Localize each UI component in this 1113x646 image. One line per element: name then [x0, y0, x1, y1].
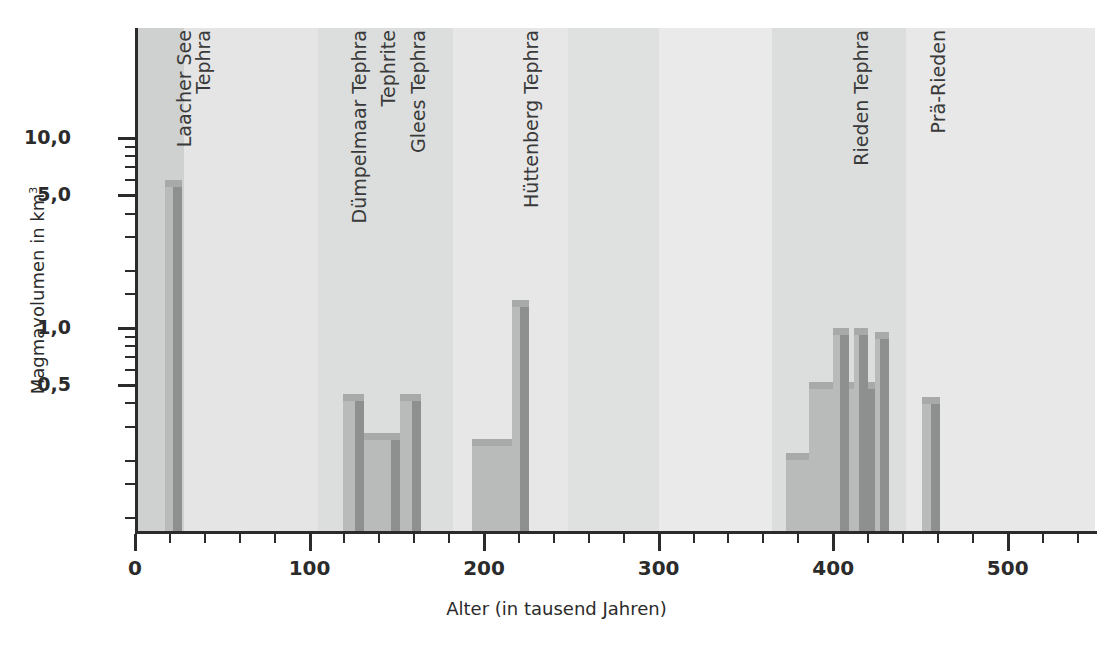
y-axis-minor-tick	[125, 483, 136, 485]
bar	[875, 332, 889, 532]
x-axis-major-tick	[483, 534, 486, 551]
bar-side-face	[931, 404, 940, 532]
x-axis-minor-tick	[762, 534, 764, 543]
plot-area	[135, 28, 1095, 532]
bar	[400, 394, 421, 532]
bar	[854, 328, 868, 532]
x-axis-tick-label: 100	[275, 556, 345, 580]
x-axis-major-tick	[134, 534, 137, 551]
bar-side-face	[880, 339, 889, 532]
bar	[165, 180, 182, 532]
x-axis-major-tick	[309, 534, 312, 551]
y-axis-major-tick	[118, 384, 136, 387]
y-axis-minor-tick	[125, 213, 136, 215]
y-axis-minor-tick	[125, 270, 136, 272]
x-axis-minor-tick	[797, 534, 799, 543]
x-axis-minor-tick	[413, 534, 415, 543]
bar-side-face	[173, 187, 182, 532]
bar-side-face	[859, 335, 868, 532]
bar-side-face	[391, 440, 400, 532]
background-band	[659, 28, 772, 532]
x-axis-tick-label: 200	[449, 556, 519, 580]
x-axis-minor-tick	[727, 534, 729, 543]
x-axis-minor-tick	[867, 534, 869, 543]
background-band	[568, 28, 659, 532]
bar-top-face	[364, 433, 401, 440]
x-axis-minor-tick	[343, 534, 345, 543]
y-axis-minor-tick	[125, 356, 136, 358]
bar	[343, 394, 364, 532]
y-axis-minor-tick	[125, 369, 136, 371]
event-label: Hüttenberg Tephra	[520, 30, 542, 208]
x-axis-minor-tick	[588, 534, 590, 543]
x-axis-minor-tick	[553, 534, 555, 543]
bar	[833, 328, 849, 532]
x-axis-tick-label: 300	[624, 556, 694, 580]
y-axis-major-tick	[118, 137, 136, 140]
x-axis-line	[135, 531, 1097, 534]
x-axis-major-tick	[832, 534, 835, 551]
event-label: Prä-Rieden	[927, 30, 949, 133]
event-label: Glees Tephra	[407, 30, 429, 153]
y-axis-minor-tick	[125, 179, 136, 181]
y-axis-line	[135, 28, 138, 534]
x-axis-tick-label: 0	[100, 556, 170, 580]
event-label: Dümpelmaar Tephra	[348, 30, 370, 223]
bar-top-face	[833, 328, 849, 335]
x-axis-minor-tick	[623, 534, 625, 543]
x-axis-minor-tick	[274, 534, 276, 543]
bar-top-face	[512, 300, 529, 307]
y-axis-title-text: Magmavolumen in km	[27, 194, 48, 394]
y-axis-minor-tick	[125, 426, 136, 428]
background-band	[184, 28, 318, 532]
bar	[512, 300, 529, 532]
bar-top-face	[400, 394, 421, 401]
y-axis-minor-tick	[125, 146, 136, 148]
x-axis-minor-tick	[902, 534, 904, 543]
y-axis-major-tick	[118, 327, 136, 330]
bar	[922, 397, 939, 532]
x-axis-tick-label: 500	[973, 556, 1043, 580]
bar-side-face	[355, 401, 364, 532]
y-axis-major-tick	[118, 194, 136, 197]
x-axis-major-tick	[1007, 534, 1010, 551]
y-axis-title-exponent: 3	[27, 187, 40, 194]
y-axis-minor-tick	[125, 460, 136, 462]
event-label: Rieden Tephra	[850, 30, 872, 166]
y-axis-minor-tick	[125, 155, 136, 157]
bar-top-face	[854, 328, 868, 335]
tephra-volume-chart: 010020030040050010,05,01,00,5 Laacher Se…	[0, 0, 1113, 646]
x-axis-title: Alter (in tausend Jahren)	[0, 598, 1113, 619]
y-axis-minor-tick	[125, 345, 136, 347]
x-axis-minor-tick	[972, 534, 974, 543]
x-axis-minor-tick	[1077, 534, 1079, 543]
y-axis-minor-tick	[125, 166, 136, 168]
bar	[364, 433, 401, 532]
x-axis-minor-tick	[937, 534, 939, 543]
y-axis-minor-tick	[125, 236, 136, 238]
x-axis-minor-tick	[239, 534, 241, 543]
x-axis-tick-label: 400	[798, 556, 868, 580]
x-axis-minor-tick	[204, 534, 206, 543]
bar-side-face	[412, 401, 421, 532]
x-axis-minor-tick	[448, 534, 450, 543]
x-axis-major-tick	[658, 534, 661, 551]
event-label: Tephra	[192, 30, 214, 94]
y-axis-title: Magmavolumen in km3	[27, 91, 48, 491]
x-axis-minor-tick	[169, 534, 171, 543]
bar-top-face	[875, 332, 889, 339]
bar-top-face	[343, 394, 364, 401]
bar-side-face	[840, 335, 849, 532]
x-axis-minor-tick	[693, 534, 695, 543]
y-axis-minor-tick	[125, 402, 136, 404]
bar-top-face	[922, 397, 939, 404]
bar-top-face	[165, 180, 182, 187]
event-label: Tephrite	[377, 30, 399, 106]
y-axis-minor-tick	[125, 517, 136, 519]
x-axis-minor-tick	[378, 534, 380, 543]
y-axis-minor-tick	[125, 293, 136, 295]
x-axis-minor-tick	[1042, 534, 1044, 543]
y-axis-minor-tick	[125, 336, 136, 338]
x-axis-minor-tick	[518, 534, 520, 543]
bar-side-face	[520, 307, 529, 532]
